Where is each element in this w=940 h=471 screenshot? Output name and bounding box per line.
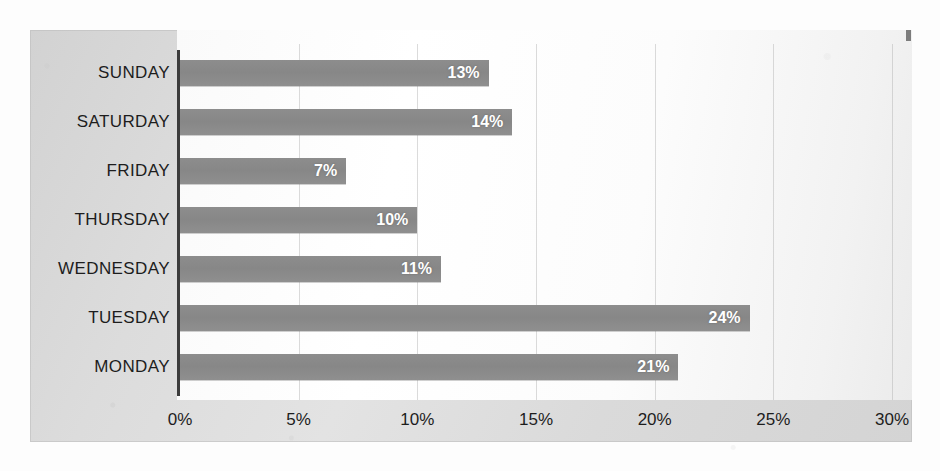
x-tick-label-20pct: 20%	[638, 410, 672, 430]
category-label-monday: MONDAY	[30, 357, 170, 377]
bar-saturday[interactable]: 14%	[180, 109, 512, 135]
x-tick-label-25pct: 25%	[756, 410, 790, 430]
bar-value-label-wednesday: 11%	[401, 260, 432, 278]
category-label-thursday: THURSDAY	[30, 210, 170, 230]
category-label-saturday: SATURDAY	[30, 112, 170, 132]
x-tick-label-30pct: 30%	[875, 410, 909, 430]
bar-thursday[interactable]: 10%	[180, 207, 417, 233]
bar-tuesday[interactable]: 24%	[180, 305, 750, 331]
bar-row: FRIDAY7%	[30, 146, 912, 195]
bar-row: THURSDAY10%	[30, 195, 912, 244]
bar-row: SUNDAY13%	[30, 48, 912, 97]
x-tick-label-5pct: 5%	[286, 410, 311, 430]
bar-value-label-saturday: 14%	[471, 113, 503, 131]
bar-sunday[interactable]: 13%	[180, 60, 489, 86]
bar-value-label-monday: 21%	[637, 358, 669, 376]
bar-monday[interactable]: 21%	[180, 354, 678, 380]
bar-row: SATURDAY14%	[30, 97, 912, 146]
category-label-sunday: SUNDAY	[30, 63, 170, 83]
x-tick-label-15pct: 15%	[519, 410, 553, 430]
bar-wednesday[interactable]: 11%	[180, 256, 441, 282]
x-axis-tick-labels: 0%5%10%15%20%25%30%	[30, 404, 912, 438]
bar-row: WEDNESDAY11%	[30, 244, 912, 293]
bar-row: TUESDAY24%	[30, 293, 912, 342]
chart-frame: SUNDAY13%SATURDAY14%FRIDAY7%THURSDAY10%W…	[30, 30, 912, 442]
bars-group: SUNDAY13%SATURDAY14%FRIDAY7%THURSDAY10%W…	[30, 30, 912, 442]
chart-screenshot: SUNDAY13%SATURDAY14%FRIDAY7%THURSDAY10%W…	[0, 0, 940, 471]
x-tick-label-0pct: 0%	[168, 410, 193, 430]
bar-row: MONDAY21%	[30, 342, 912, 391]
bar-value-label-friday: 7%	[314, 162, 337, 180]
bar-friday[interactable]: 7%	[180, 158, 346, 184]
x-tick-label-10pct: 10%	[400, 410, 434, 430]
scan-artifact-mark	[906, 30, 911, 41]
bar-value-label-tuesday: 24%	[709, 309, 741, 327]
bar-value-label-thursday: 10%	[376, 211, 408, 229]
bar-value-label-sunday: 13%	[448, 64, 480, 82]
category-label-tuesday: TUESDAY	[30, 308, 170, 328]
category-label-wednesday: WEDNESDAY	[30, 259, 170, 279]
category-label-friday: FRIDAY	[30, 161, 170, 181]
